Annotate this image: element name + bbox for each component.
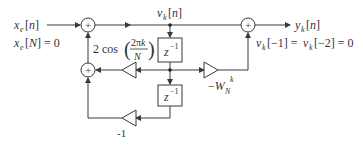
svg-text:e: e	[20, 25, 24, 34]
adder-output: +	[241, 18, 255, 32]
svg-text:N: N	[133, 51, 142, 62]
svg-text:+: +	[85, 19, 91, 31]
svg-text:k: k	[262, 43, 266, 52]
svg-text:2 cos: 2 cos	[93, 42, 118, 56]
svg-text:k: k	[309, 43, 313, 52]
svg-text:(: (	[124, 38, 131, 61]
svg-text:): )	[148, 38, 155, 61]
gain-minus-w-triangle	[204, 62, 218, 78]
gain-minus-one-label: -1	[117, 127, 126, 139]
delay-box-1: z −1	[158, 38, 182, 62]
svg-text:y: y	[294, 18, 301, 32]
svg-text:−1: −1	[170, 42, 179, 51]
svg-text:k: k	[230, 75, 234, 84]
svg-text:[n]: [n]	[306, 18, 320, 32]
svg-text:[−2] = 0: [−2] = 0	[314, 36, 354, 50]
svg-text:N: N	[224, 87, 231, 96]
node-delay1	[168, 68, 172, 72]
svg-text:[N] = 0: [N] = 0	[25, 36, 60, 50]
flow-graph: + + + z −1 z −1 x e [n] x e [N] = 0 v k …	[0, 0, 363, 149]
svg-text:e: e	[20, 43, 24, 52]
svg-text:+: +	[85, 64, 91, 76]
input-condition-label: x e [N] = 0	[13, 36, 60, 52]
node-vk	[168, 23, 172, 27]
svg-text:2πk: 2πk	[131, 37, 146, 48]
adder-feedback: +	[81, 63, 95, 77]
svg-text:[−1] =: [−1] =	[267, 36, 298, 50]
initial-conditions-label: v k [−1] = v k [−2] = 0	[256, 36, 354, 52]
svg-text:−W: −W	[208, 79, 226, 93]
svg-text:z: z	[163, 45, 169, 59]
state-label: v k [n]	[157, 6, 182, 22]
svg-text:k: k	[301, 25, 305, 34]
svg-text:k: k	[163, 13, 167, 22]
adder-input: +	[81, 18, 95, 32]
delay-box-2: z −1	[158, 85, 182, 106]
svg-text:[n]: [n]	[168, 6, 182, 20]
gain-2cos-label: 2 cos ( 2πk N )	[93, 37, 155, 62]
svg-text:x: x	[13, 18, 20, 32]
output-label: y k [n]	[294, 18, 320, 34]
svg-text:x: x	[13, 36, 20, 50]
svg-text:−1: −1	[170, 87, 179, 96]
svg-text:+: +	[245, 19, 251, 31]
gain-minus-one-triangle	[122, 110, 136, 126]
svg-text:[n]: [n]	[25, 18, 39, 32]
gain-minus-w-label: −W N k	[208, 75, 234, 96]
input-label: x e [n]	[13, 18, 39, 34]
gain-2cos-triangle	[122, 62, 136, 78]
svg-text:z: z	[163, 90, 169, 104]
